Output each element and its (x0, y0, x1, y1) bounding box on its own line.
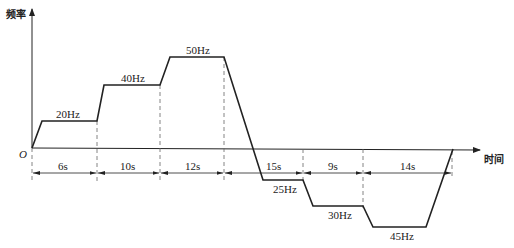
x-axis-label: 时间 (484, 153, 504, 165)
frequency-time-diagram: 频率 时间 O 6s 10s 12s 15s 9s 14s 20Hz 40Hz … (0, 0, 514, 248)
duration-dimension-lines (33, 171, 451, 175)
x-axis (32, 148, 480, 150)
frequency-label: 20Hz (56, 108, 80, 120)
frequency-label: 50Hz (186, 44, 210, 56)
duration-label: 9s (328, 160, 338, 172)
frequency-label: 40Hz (121, 72, 145, 84)
duration-label: 14s (400, 160, 415, 172)
frequency-profile-line (32, 57, 453, 227)
duration-label: 15s (266, 160, 281, 172)
duration-label: 10s (120, 160, 135, 172)
origin-label: O (19, 148, 27, 160)
time-dividers (32, 57, 452, 208)
frequency-label: 30Hz (328, 209, 352, 221)
duration-label: 6s (58, 160, 68, 172)
y-axis-label: 频率 (6, 8, 26, 20)
frequency-label: 45Hz (390, 230, 414, 242)
duration-label: 12s (185, 160, 200, 172)
frequency-label: 25Hz (273, 183, 297, 195)
